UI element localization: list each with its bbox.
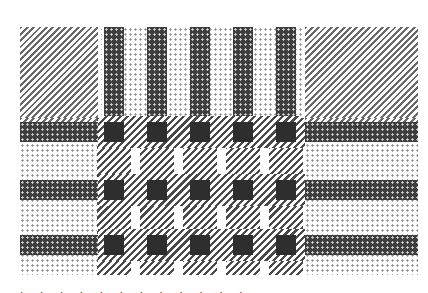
crossing-4-0 [276, 122, 296, 142]
vertical-stripe-top-1 [147, 27, 167, 118]
crossing-3-0 [233, 122, 253, 142]
crossing-3-2 [233, 235, 253, 255]
band-left-0 [20, 122, 98, 142]
vertical-stripe-top-0 [104, 27, 124, 118]
vertical-stripe-top-2 [190, 27, 210, 118]
crossing-2-2 [190, 235, 210, 255]
crossing-4-1 [276, 180, 296, 200]
crossing-0-0 [104, 122, 124, 142]
crossing-1-2 [147, 235, 167, 255]
crossing-2-1 [190, 180, 210, 200]
corner-hatch-top-left [20, 27, 98, 118]
crossing-1-1 [147, 180, 167, 200]
band-right-1 [305, 180, 418, 200]
crossing-3-1 [233, 180, 253, 200]
seam-right [302, 27, 305, 118]
crossing-2-0 [190, 122, 210, 142]
crossing-4-2 [276, 235, 296, 255]
band-right-0 [305, 122, 418, 142]
corner-hatch-top-right [305, 27, 418, 118]
band-left-1 [20, 180, 98, 200]
plaid-fabric [20, 27, 418, 275]
vertical-stripe-top-3 [233, 27, 253, 118]
crossing-0-2 [104, 235, 124, 255]
crossing-1-0 [147, 122, 167, 142]
band-left-2 [20, 235, 98, 255]
seam-left [98, 27, 101, 118]
band-right-2 [305, 235, 418, 255]
cropped-caption: ˙ ˙ ˙ ˙ ˙ ˙ ˙ ˙ ˙ ˙ ˙ ˙ [20, 284, 418, 293]
crossing-0-1 [104, 180, 124, 200]
vertical-stripe-top-4 [276, 27, 296, 118]
